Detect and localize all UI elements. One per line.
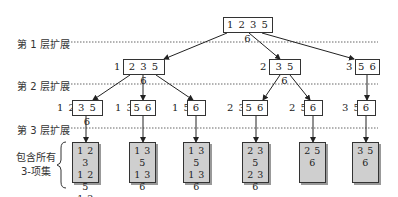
level2-node: 6 bbox=[187, 100, 206, 116]
itemset: 2 3 6 bbox=[243, 169, 268, 193]
brace-icon bbox=[57, 142, 66, 188]
itemset-leaf: 3 5 6 bbox=[352, 142, 379, 183]
itemset: 1 2 5 bbox=[73, 169, 98, 193]
itemset: 2 3 5 bbox=[243, 145, 268, 169]
level2-node: 3 5 6 bbox=[72, 100, 103, 116]
itemset: 1 2 6 bbox=[73, 193, 98, 197]
level2-node: 6 bbox=[304, 100, 323, 116]
level-3-label: 第 3 层扩展 bbox=[17, 122, 70, 137]
level-1-label: 第 1 层扩展 bbox=[17, 36, 70, 51]
itemset-leaf: 2 3 5 2 3 6 bbox=[242, 142, 269, 183]
itemset-leaf: 1 3 5 1 3 6 bbox=[129, 142, 156, 183]
brace-label-line: 3-项集 bbox=[16, 165, 56, 179]
root-node: 1 2 3 5 6 bbox=[223, 17, 273, 33]
itemset: 1 3 6 bbox=[184, 169, 209, 193]
itemset: 1 3 6 bbox=[130, 169, 155, 193]
brace-label: 包含所有 3-项集 bbox=[16, 151, 56, 179]
level1-prefix: 1 bbox=[114, 60, 121, 74]
itemset-leaf: 1 2 3 1 2 5 1 2 6 bbox=[72, 142, 99, 183]
itemset-leaf: 1 3 5 1 3 6 bbox=[183, 142, 210, 183]
itemset: 1 3 5 bbox=[130, 145, 155, 169]
level2-node: 5 6 bbox=[242, 100, 268, 116]
itemset: 3 5 6 bbox=[353, 145, 378, 169]
level1-node: 2 3 5 6 bbox=[123, 59, 165, 75]
itemset: 1 3 5 bbox=[184, 145, 209, 169]
level1-node: 3 5 6 bbox=[269, 59, 301, 75]
itemset-leaf: 2 5 6 bbox=[299, 142, 326, 183]
level1-node: 5 6 bbox=[355, 59, 380, 75]
level2-node: 5 6 bbox=[130, 100, 156, 116]
level1-prefix: 2 bbox=[260, 60, 267, 74]
level2-node: 6 bbox=[357, 100, 376, 116]
itemset: 1 2 3 bbox=[73, 145, 98, 169]
level-2-label: 第 2 层扩展 bbox=[17, 78, 70, 93]
brace-label-line: 包含所有 bbox=[16, 151, 56, 165]
itemset: 2 5 6 bbox=[300, 145, 325, 169]
level1-prefix: 3 bbox=[346, 60, 353, 74]
